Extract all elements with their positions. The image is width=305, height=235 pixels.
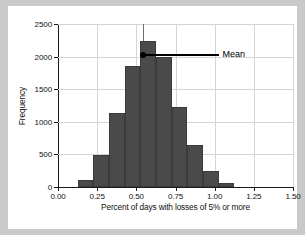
x-axis-tick bbox=[254, 187, 255, 191]
histogram-bar bbox=[187, 145, 203, 187]
y-axis-tick-label: 0 bbox=[48, 183, 52, 192]
y-axis-tick bbox=[54, 24, 58, 25]
histogram-bar bbox=[172, 107, 188, 187]
histogram-bar bbox=[140, 41, 156, 187]
peak-reference-line bbox=[143, 24, 144, 41]
x-axis-tick-label: 1.00 bbox=[207, 192, 222, 201]
x-axis-tick-label: 1.50 bbox=[285, 192, 300, 201]
y-axis-tick bbox=[54, 57, 58, 58]
x-gridline bbox=[215, 24, 216, 187]
y-axis-tick bbox=[54, 89, 58, 90]
x-axis-tick-label: 0.00 bbox=[50, 192, 65, 201]
y-axis-title-text: Frequency bbox=[17, 86, 27, 124]
x-axis-tick bbox=[176, 187, 177, 191]
figure-canvas: Frequency 050010001500200025000.000.250.… bbox=[8, 6, 297, 229]
y-axis-tick-label: 1500 bbox=[35, 85, 52, 94]
histogram-bar bbox=[156, 57, 172, 187]
x-axis-tick bbox=[58, 187, 59, 191]
x-axis-tick bbox=[136, 187, 137, 191]
y-axis-tick-label: 1000 bbox=[35, 117, 52, 126]
x-axis-tick-label: 0.75 bbox=[168, 192, 183, 201]
x-axis-tick bbox=[215, 187, 216, 191]
histogram-bar bbox=[219, 183, 235, 187]
x-axis-tick-label: 0.50 bbox=[129, 192, 144, 201]
histogram-bar bbox=[203, 171, 219, 187]
y-axis-tick-label: 500 bbox=[39, 150, 52, 159]
plot-area: 050010001500200025000.000.250.500.751.00… bbox=[58, 24, 293, 187]
y-axis-tick-label: 2000 bbox=[35, 52, 52, 61]
x-axis-tick bbox=[97, 187, 98, 191]
y-axis-tick bbox=[54, 122, 58, 123]
x-axis-tick-label: 0.25 bbox=[90, 192, 105, 201]
x-axis-tick-label: 1.25 bbox=[246, 192, 261, 201]
mean-leader-line bbox=[143, 54, 219, 56]
x-gridline bbox=[293, 24, 294, 187]
x-axis-title: Percent of days with losses of 5% or mor… bbox=[58, 202, 293, 212]
histogram-bar bbox=[78, 180, 94, 187]
histogram-bar bbox=[109, 113, 125, 187]
histogram-bar bbox=[93, 155, 109, 187]
histogram-bar bbox=[125, 66, 141, 187]
y-axis-title: Frequency bbox=[16, 24, 28, 187]
y-axis-tick bbox=[54, 154, 58, 155]
x-axis-tick bbox=[293, 187, 294, 191]
x-gridline bbox=[254, 24, 255, 187]
y-axis-tick-label: 2500 bbox=[35, 20, 52, 29]
mean-annotation-label: Mean bbox=[223, 49, 246, 59]
